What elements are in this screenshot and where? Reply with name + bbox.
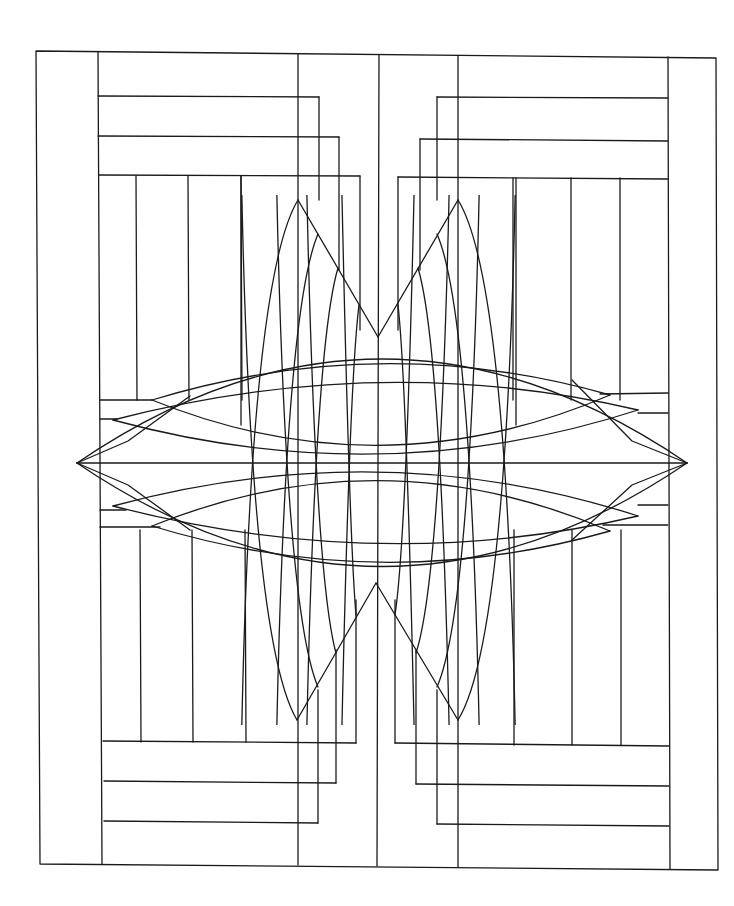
stripe-bl-2 xyxy=(245,530,246,742)
tab-right-1 xyxy=(600,393,668,394)
band-tr-2 xyxy=(420,139,668,141)
band-tl-1 xyxy=(98,96,319,97)
lens-weave-a-2 xyxy=(113,472,638,516)
stripe-tl-0 xyxy=(136,176,137,400)
lens-weave-a-3 xyxy=(152,481,610,531)
arch-curve-bl-3 xyxy=(341,150,356,615)
stripe-bl-0 xyxy=(140,530,141,742)
band-br-1 xyxy=(437,824,669,826)
stripe-bl-1 xyxy=(192,530,193,742)
lens-right-upper-edge xyxy=(572,380,687,463)
band-br-3 xyxy=(395,743,669,746)
arch-curve-tr-3 xyxy=(398,305,415,770)
line-artwork xyxy=(0,0,734,906)
lens-weave-a-0 xyxy=(113,410,638,454)
lens-weave-a-1 xyxy=(152,395,610,445)
outer-frame xyxy=(36,51,718,870)
arch-curve-tl-0 xyxy=(241,200,298,770)
arch-curve-tl-1 xyxy=(276,234,318,770)
band-tr-1 xyxy=(437,97,668,98)
stripe-tl-1 xyxy=(188,176,189,400)
center-axis xyxy=(377,55,379,866)
l-shaped-bands xyxy=(98,96,669,826)
band-bl-2 xyxy=(104,781,336,783)
band-tl-3 xyxy=(99,175,360,176)
band-tr-3 xyxy=(398,177,668,179)
band-tl-2 xyxy=(98,136,339,137)
band-bl-1 xyxy=(104,821,318,823)
band-br-2 xyxy=(416,784,669,786)
arch-curve-bl-1 xyxy=(276,150,318,687)
frame-inner-left xyxy=(98,52,102,864)
horizontal-lens-weave xyxy=(77,359,687,567)
